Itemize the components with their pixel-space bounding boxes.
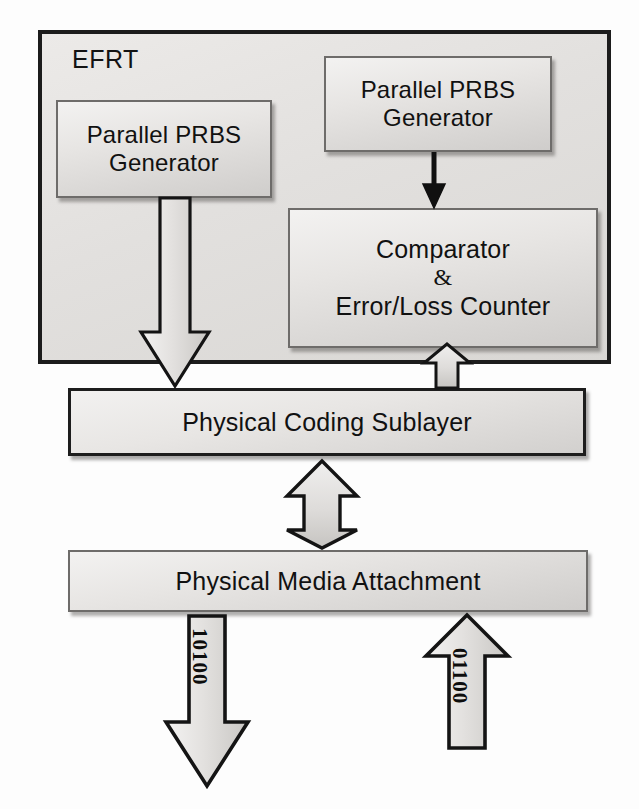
arrow-pcs-pma-bidirectional-icon: [287, 461, 357, 548]
prbs-rx-line-1: Parallel PRBS: [361, 76, 516, 104]
parallel-prbs-generator-rx-block: Parallel PRBS Generator: [324, 56, 552, 152]
transmit-bit-label: 10100: [187, 628, 212, 686]
comparator-line-3: Error/Loss Counter: [336, 292, 551, 321]
comparator-line-2: &: [434, 264, 453, 292]
prbs-tx-line-1: Parallel PRBS: [87, 121, 242, 149]
efrt-label: EFRT: [72, 45, 139, 74]
comparator-line-1: Comparator: [376, 235, 510, 264]
pcs-label: Physical Coding Sublayer: [182, 408, 472, 437]
physical-media-attachment-block: Physical Media Attachment: [68, 550, 588, 612]
receive-bit-label: 01100: [447, 648, 472, 704]
comparator-error-loss-counter-block: Comparator & Error/Loss Counter: [288, 208, 598, 348]
parallel-prbs-generator-tx-block: Parallel PRBS Generator: [56, 100, 272, 198]
prbs-rx-line-2: Generator: [383, 104, 493, 132]
prbs-tx-line-2: Generator: [109, 149, 219, 177]
physical-coding-sublayer-block: Physical Coding Sublayer: [68, 388, 586, 456]
pma-label: Physical Media Attachment: [175, 567, 480, 596]
diagram-canvas: EFRT Parallel PRBS Generator Parallel PR…: [0, 0, 639, 809]
